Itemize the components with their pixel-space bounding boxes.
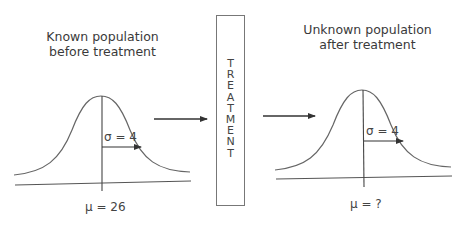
left-mean-label: μ = 26: [85, 200, 126, 214]
treatment-label: T R E A T M E N T: [217, 58, 244, 159]
left-baseline: [15, 181, 191, 185]
treatment-letter: T: [217, 148, 244, 159]
right-mean-line: [363, 90, 364, 187]
treatment-letter: N: [217, 136, 244, 147]
treatment-letter: E: [217, 80, 244, 91]
left-sigma-label: σ = 4: [104, 130, 137, 144]
right-sigma-label: σ = 4: [366, 124, 399, 138]
right-mean-label: μ = ?: [350, 197, 382, 211]
treatment-box: T R E A T M E N T: [216, 15, 245, 206]
